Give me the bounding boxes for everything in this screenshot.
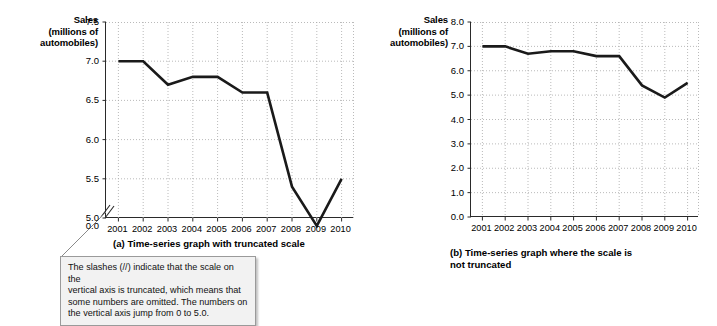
y-axis-title-line2: (millions of (10, 26, 98, 38)
data-series-line (118, 61, 341, 226)
truncation-note-box: The slashes (//) indicate that the scale… (60, 256, 256, 326)
y-tick-label: 6.0 (73, 135, 99, 145)
x-tick-label: 2003 (154, 224, 180, 234)
y-axis-title-line3: automobiles) (10, 37, 98, 49)
note-line-2: vertical axis is truncated, which means … (68, 285, 248, 297)
y-tick-label: 3.0 (438, 139, 464, 149)
x-tick-label: 2010 (674, 223, 700, 233)
x-tick-label: 2008 (278, 224, 304, 234)
y-tick-label: 7.0 (73, 56, 99, 66)
note-line-1: The slashes (//) indicate that the scale… (68, 262, 248, 285)
data-series-line (482, 46, 687, 97)
caption-a: (a) Time-series graph with truncated sca… (113, 238, 363, 250)
y-tick-label: 2.0 (438, 163, 464, 173)
y-tick-label: 0.0 (73, 221, 99, 231)
y-axis-title-line2: (millions of (360, 26, 448, 38)
x-tick-label: 2002 (129, 224, 155, 234)
x-tick-label: 2010 (328, 224, 354, 234)
x-tick-label: 2004 (179, 224, 205, 234)
chart-panel-truncated: Sales (millions of automobiles) (a) Time… (0, 0, 372, 322)
y-tick-label: 6.5 (73, 95, 99, 105)
x-tick-label: 2006 (228, 224, 254, 234)
x-tick-label: 2009 (303, 224, 329, 234)
note-line-3: some numbers are omitted. The numbers on (68, 297, 248, 309)
caption-b-line1: (b) Time-series graph where the scale is (450, 247, 700, 259)
y-tick-label: 8.0 (438, 17, 464, 27)
y-tick-label: 1.0 (438, 188, 464, 198)
y-tick-label: 7.5 (73, 17, 99, 27)
y-axis-title-line1: Sales (360, 14, 448, 26)
y-tick-label: 7.0 (438, 41, 464, 51)
y-axis-title-b: Sales (millions of automobiles) (360, 14, 448, 49)
chart-panel-not-truncated: Sales (millions of automobiles) (b) Time… (372, 0, 717, 322)
y-tick-label: 4.0 (438, 115, 464, 125)
note-line-4: the vertical axis jump from 0 to 5.0. (68, 308, 248, 320)
y-tick-label: 0.0 (438, 212, 464, 222)
caption-b-line2: not truncated (450, 259, 700, 271)
plot-area-not-truncated (470, 22, 698, 217)
x-tick-label: 2005 (204, 224, 230, 234)
plot-area-truncated (105, 22, 353, 218)
chart-svg (471, 22, 699, 217)
y-tick-label: 5.5 (73, 174, 99, 184)
y-tick-label: 5.0 (438, 90, 464, 100)
x-tick-label: 2001 (104, 224, 130, 234)
chart-svg (106, 22, 354, 218)
x-tick-label: 2007 (253, 224, 279, 234)
y-tick-label: 6.0 (438, 66, 464, 76)
y-axis-title-line3: automobiles) (360, 37, 448, 49)
caption-b: (b) Time-series graph where the scale is… (450, 247, 700, 271)
